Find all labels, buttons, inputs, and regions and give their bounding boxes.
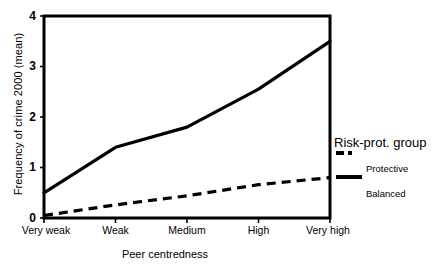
x-tick-label-medium: Medium <box>168 224 205 236</box>
chart-legend: Risk-prot. group Protective Balanced <box>336 136 442 194</box>
x-tick-label-high: High <box>248 224 270 236</box>
dashed-line-icon <box>336 151 362 155</box>
legend-label-balanced: Balanced <box>366 188 406 199</box>
series-line-protective <box>44 178 330 216</box>
x-tick-label-very-high: Very high <box>306 224 350 236</box>
series-line-balanced <box>44 41 330 193</box>
y-tick-label-3: 3 <box>20 60 36 72</box>
legend-entry-balanced: Balanced <box>336 172 442 194</box>
y-tick-label-0: 0 <box>20 212 36 224</box>
plot-border <box>44 16 330 218</box>
solid-line-icon <box>336 175 362 179</box>
y-tick-label-1: 1 <box>20 161 36 173</box>
y-tick-label-4: 4 <box>20 10 36 22</box>
y-tick-label-2: 2 <box>20 111 36 123</box>
x-tick-label-very-weak: Very weak <box>22 224 70 236</box>
legend-title: Risk-prot. group <box>334 136 442 150</box>
x-tick-label-weak: Weak <box>102 224 129 236</box>
legend-entry-protective: Protective <box>336 150 442 172</box>
chart-figure: Frequency of crime 2000 (mean) 4 3 2 1 0… <box>0 0 442 274</box>
x-axis-title: Peer centredness <box>0 248 330 260</box>
plot-frame <box>44 16 330 218</box>
